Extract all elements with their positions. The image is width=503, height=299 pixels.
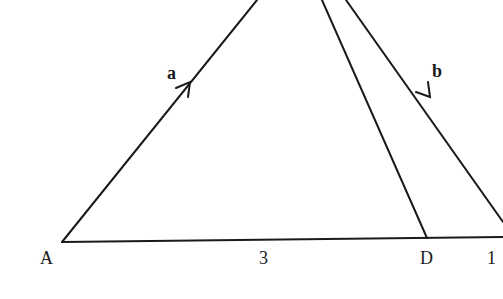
base-line (62, 237, 503, 242)
cevian-line-to-d (322, 0, 427, 238)
label-vertex-a: A (40, 249, 53, 267)
label-length-right: 1 (487, 249, 496, 267)
label-vector-b: b (432, 62, 442, 80)
side-b-line (346, 0, 503, 222)
label-vector-a: a (167, 64, 176, 82)
label-vertex-d: D (420, 249, 433, 267)
label-length-ad: 3 (259, 249, 268, 267)
side-a-line (62, 0, 257, 242)
arrow-b-icon (416, 82, 430, 97)
